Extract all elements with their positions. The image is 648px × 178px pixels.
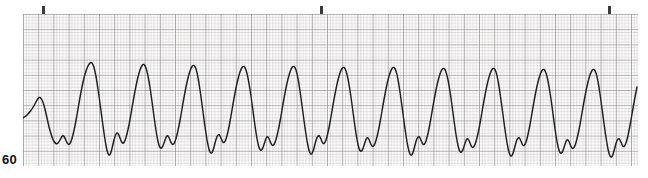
ecg-figure: 60	[0, 0, 648, 178]
ecg-strip	[23, 14, 638, 166]
ecg-strip-svg	[23, 14, 638, 166]
rate-label: 60	[2, 152, 17, 168]
ecg-graph-paper-grid	[23, 14, 638, 166]
